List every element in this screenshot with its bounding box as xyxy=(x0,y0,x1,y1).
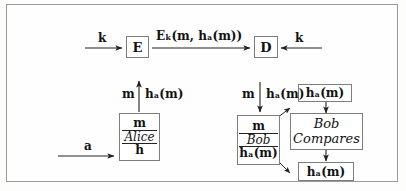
alice-up-right-text: hₐ(m) xyxy=(145,87,183,101)
message-a-label: a xyxy=(84,139,92,153)
key-left-label: k xyxy=(98,31,106,45)
bob-box[interactable]: m Bob hₐ(m) xyxy=(237,115,280,165)
bob-compares-line2: Compares xyxy=(293,132,360,146)
alice-name-label: Alice xyxy=(122,130,156,145)
alice-box[interactable]: m Alice h xyxy=(119,113,160,161)
bob-down-right-label: hₐ(m) xyxy=(266,87,304,101)
bob-compares-stack: Bob Compares xyxy=(293,117,360,146)
bob-stack: m Bob hₐ(m) xyxy=(239,120,277,160)
alice-up-left-label: m xyxy=(122,87,135,101)
alice-bottom-label: h xyxy=(122,144,156,157)
diagram-canvas: E D m Alice h m Bob hₐ(m) Bob Compares h… xyxy=(0,0,406,191)
decryption-box-label: D xyxy=(260,40,271,55)
key-right-label: k xyxy=(295,31,303,45)
bob-name-label: Bob xyxy=(239,133,277,148)
hash-top-label: hₐ(m) xyxy=(306,86,344,100)
bob-down-right-text: hₐ(m) xyxy=(266,87,304,101)
key-left-text: k xyxy=(98,31,106,45)
alice-up-right-label: hₐ(m) xyxy=(145,87,183,101)
encryption-box-label: E xyxy=(133,40,143,55)
hash-bottom-box[interactable]: hₐ(m) xyxy=(298,162,354,181)
alice-up-left-text: m xyxy=(122,87,135,101)
bob-top-label: m xyxy=(239,120,277,133)
ciphertext-label: Eₖ(m, hₐ(m)) xyxy=(156,29,242,43)
bob-compares-line1: Bob xyxy=(293,117,360,131)
hash-bottom-label: hₐ(m) xyxy=(307,165,345,179)
encryption-box[interactable]: E xyxy=(126,36,149,58)
bob-compares-box[interactable]: Bob Compares xyxy=(290,113,363,150)
message-a-text: a xyxy=(84,139,92,153)
bob-down-left-text: m xyxy=(242,87,255,101)
bob-bottom-label: hₐ(m) xyxy=(239,147,277,160)
alice-top-label: m xyxy=(122,117,156,130)
decryption-box[interactable]: D xyxy=(254,36,278,58)
hash-top-box[interactable]: hₐ(m) xyxy=(298,84,352,102)
bob-down-left-label: m xyxy=(242,87,255,101)
alice-stack: m Alice h xyxy=(122,117,156,157)
key-right-text: k xyxy=(295,31,303,45)
ciphertext-text: Eₖ(m, hₐ(m)) xyxy=(156,29,242,43)
